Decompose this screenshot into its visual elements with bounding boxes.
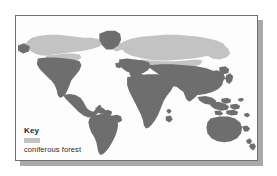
legend-title: Key: [24, 126, 144, 136]
map-legend: Key coniferous forest: [24, 126, 144, 155]
map-frame: Key coniferous forest: [15, 15, 258, 161]
legend-label-coniferous-forest: coniferous forest: [24, 145, 144, 155]
legend-swatch-coniferous-forest: [24, 138, 40, 143]
world-map-figure: Key coniferous forest: [0, 0, 277, 176]
